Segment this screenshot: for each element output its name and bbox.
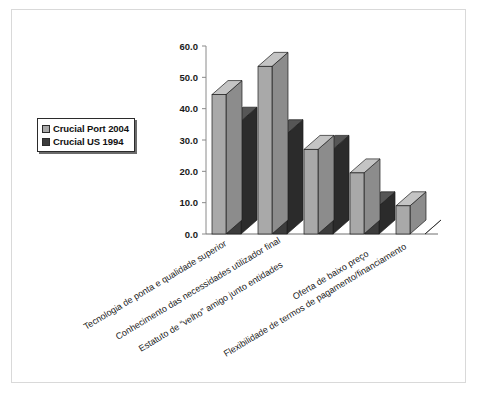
y-axis-tick-label: 10.0 [180, 197, 199, 208]
bar-side-face [287, 120, 303, 234]
bar-front-face [396, 206, 410, 234]
y-axis-tick-label: 40.0 [180, 103, 199, 114]
y-axis-tick-label: 0.0 [185, 229, 198, 240]
bar-side-face [318, 135, 334, 234]
bar-series1[interactable] [212, 81, 242, 234]
legend-swatch-icon [42, 138, 50, 146]
bar-front-face [212, 95, 226, 234]
bar-side-face [272, 52, 288, 234]
bar-series1[interactable] [258, 52, 288, 234]
legend-item[interactable]: Crucial Port 2004 [42, 122, 129, 135]
legend-swatch-icon [42, 125, 50, 133]
y-axis-tick-label: 60.0 [180, 41, 199, 52]
bar-side-face [226, 81, 242, 234]
chart-legend: Crucial Port 2004 Crucial US 1994 [37, 118, 135, 152]
bars-layer [212, 52, 441, 234]
bar-series1[interactable] [396, 192, 426, 234]
bar-front-face [350, 173, 364, 234]
legend-item-label: Crucial Port 2004 [53, 123, 129, 134]
bar-front-face [304, 149, 318, 234]
bar-series1[interactable] [304, 135, 334, 234]
category-labels: Tecnologia de ponta e qualidade superior… [82, 235, 408, 358]
bar-front-face [258, 66, 272, 234]
bar-side-face [333, 135, 349, 234]
bar-side-face [241, 107, 257, 234]
legend-item-label: Crucial US 1994 [53, 136, 123, 147]
bar-series1[interactable] [350, 159, 380, 234]
chart-container: 0.010.020.030.040.050.060.0 Tecnologia d… [0, 0, 478, 393]
bar-series2[interactable] [425, 220, 441, 234]
y-axis-tick-label: 50.0 [180, 72, 199, 83]
bar-chart-canvas: 0.010.020.030.040.050.060.0 Tecnologia d… [0, 0, 478, 393]
y-axis-tick-label: 20.0 [180, 166, 199, 177]
bar-side-face [425, 220, 441, 234]
y-axis-tick-label: 30.0 [180, 135, 199, 146]
legend-item[interactable]: Crucial US 1994 [42, 135, 129, 148]
